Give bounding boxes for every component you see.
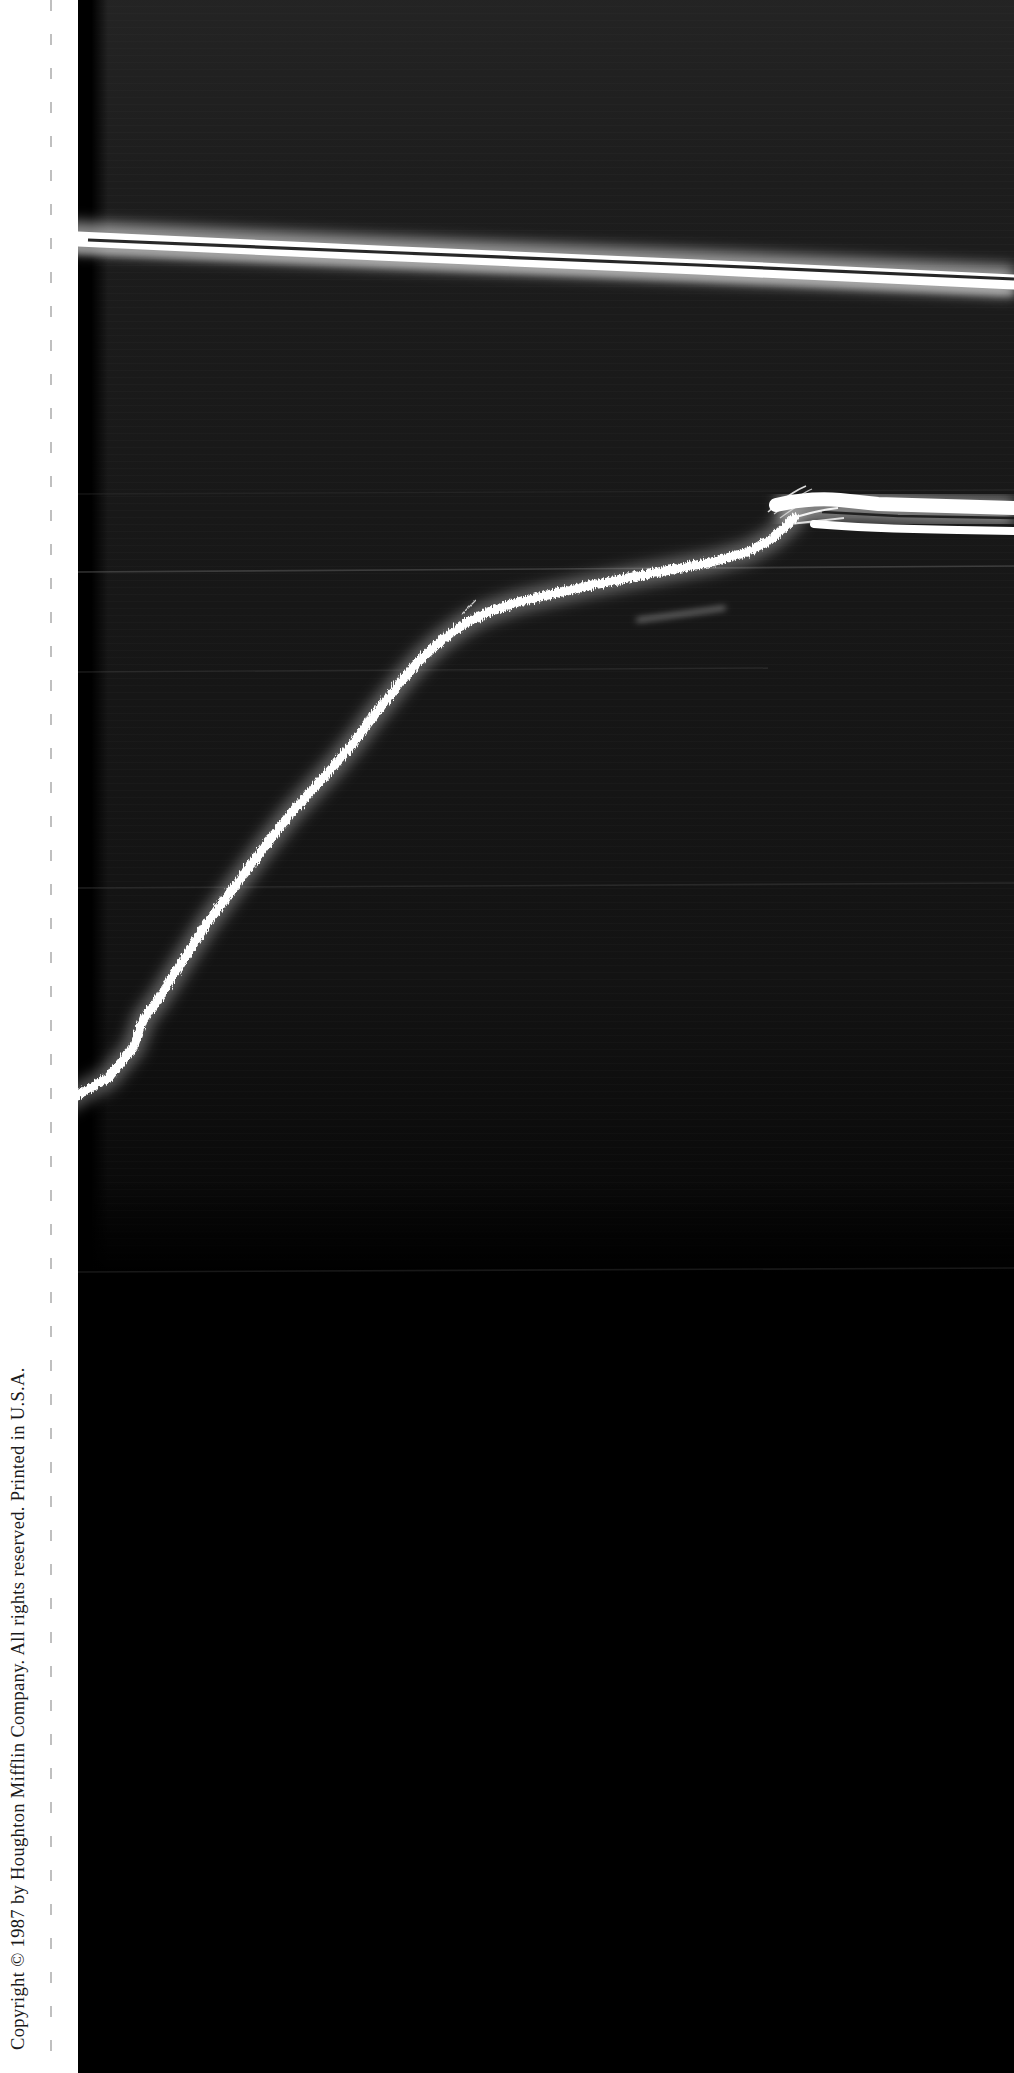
dashed-trim-line-icon xyxy=(50,0,52,2073)
copyright-notice: Copyright © 1987 by Houghton Mifflin Com… xyxy=(8,0,29,2060)
photographic-plate xyxy=(78,0,1014,1300)
plate-scan-streaks xyxy=(78,0,1014,1300)
footer-black-band xyxy=(60,1300,1014,2073)
scanned-page: Copyright © 1987 by Houghton Mifflin Com… xyxy=(0,0,1014,2073)
copyright-notice-wrap: Copyright © 1987 by Houghton Mifflin Com… xyxy=(8,0,42,2073)
plate-left-gutter xyxy=(78,0,108,1300)
plate-bottom-fade xyxy=(78,1180,1014,1300)
